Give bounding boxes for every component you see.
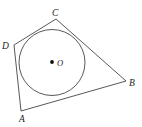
vertex-label-d: D	[1, 41, 9, 51]
vertex-label-a: A	[18, 114, 25, 124]
diagram-background	[0, 0, 142, 127]
circle-center-dot	[50, 60, 54, 64]
geometry-diagram: O A B C D	[0, 0, 142, 127]
vertex-label-b: B	[129, 78, 135, 88]
vertex-label-c: C	[52, 8, 59, 18]
center-label-o: O	[57, 58, 63, 68]
